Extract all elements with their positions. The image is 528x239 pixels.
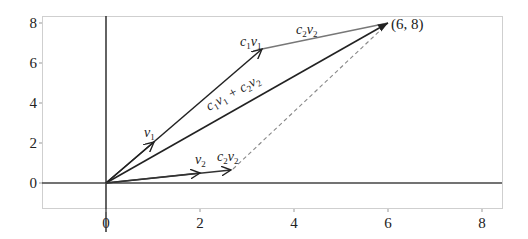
y-tick-label: 4 bbox=[30, 95, 38, 111]
label-c2v2-translated: c2v2 bbox=[296, 22, 317, 39]
y-tick-label: 6 bbox=[30, 55, 38, 71]
x-ticks: 0 2 4 6 8 bbox=[102, 209, 486, 231]
x-tick-label: 4 bbox=[290, 215, 298, 231]
y-ticks: 8 6 4 2 0 bbox=[30, 15, 43, 191]
label-v1: v1 bbox=[144, 125, 155, 142]
y-tick-label: 0 bbox=[30, 175, 38, 191]
label-v2: v2 bbox=[195, 152, 206, 169]
x-tick-label: 0 bbox=[102, 215, 110, 231]
label-c1v1: c1v1 bbox=[240, 34, 261, 51]
x-tick-label: 8 bbox=[478, 215, 486, 231]
x-tick-label: 2 bbox=[196, 215, 204, 231]
y-tick-label: 8 bbox=[30, 15, 38, 31]
x-tick-label: 6 bbox=[384, 215, 392, 231]
y-tick-label: 2 bbox=[30, 135, 38, 151]
vector-v1 bbox=[106, 142, 154, 183]
vector-chart: 8 6 4 2 0 0 2 4 6 8 v1 v2 c2v2 c1v1 c2v2… bbox=[0, 0, 528, 239]
label-sum: c1v1 + c2v2 bbox=[203, 72, 263, 116]
vector-c2v2-translated bbox=[262, 23, 388, 49]
label-c2v2: c2v2 bbox=[217, 149, 238, 166]
point-label: (6, 8) bbox=[391, 16, 424, 33]
